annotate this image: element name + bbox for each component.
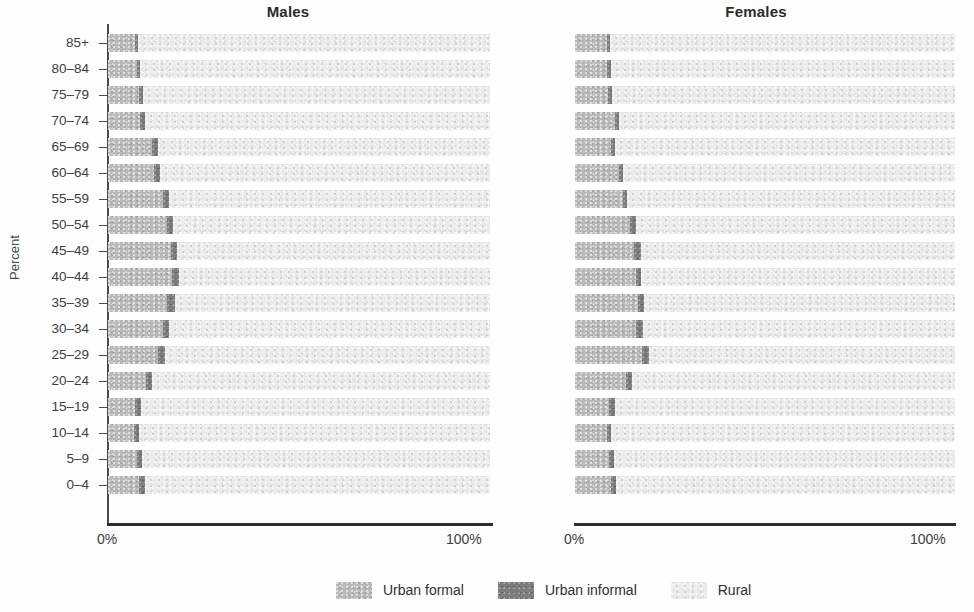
legend-label: Urban formal: [383, 582, 464, 598]
bar-segment-rural: [138, 34, 490, 52]
y-axis-tick-labels: 85+80–8475–7970–7465–6960–6455–5950–5445…: [18, 30, 92, 510]
bar-segment-urban-formal: [108, 424, 134, 442]
bar-segment-urban-formal: [108, 164, 154, 182]
bar-row: [108, 160, 490, 186]
y-tick-label: 25–29: [18, 342, 92, 368]
bar-segment-rural: [610, 34, 955, 52]
bar-segment-rural: [636, 216, 955, 234]
bar-segment-rural: [632, 372, 955, 390]
bar-segment-rural: [612, 86, 955, 104]
bar-segment-rural: [623, 164, 955, 182]
bar-segment-rural: [611, 60, 955, 78]
bar-segment-rural: [160, 164, 490, 182]
y-tick-mark: [99, 43, 108, 44]
legend-swatch-icon: [336, 582, 372, 599]
bar-row: [575, 82, 955, 108]
bar-segment-urban-formal: [575, 216, 630, 234]
bar-segment-urban-formal: [108, 372, 146, 390]
x-tick-females-right: 100%: [910, 531, 946, 547]
bar-segment-urban-formal: [575, 34, 607, 52]
y-tick-mark: [99, 225, 108, 226]
bar-segment-urban-formal: [108, 346, 158, 364]
y-tick-mark: [99, 303, 108, 304]
y-tick-label: 10–14: [18, 420, 92, 446]
y-tick-label: 65–69: [18, 134, 92, 160]
bar-row: [575, 472, 955, 498]
y-tick-label: 75–79: [18, 82, 92, 108]
y-tick-label: 15–19: [18, 394, 92, 420]
bar-segment-urban-formal: [575, 268, 636, 286]
bar-segment-urban-formal: [575, 372, 626, 390]
bar-segment-rural: [173, 216, 490, 234]
bar-row: [108, 420, 490, 446]
y-tick-label: 35–39: [18, 290, 92, 316]
y-tick-mark: [99, 95, 108, 96]
x-axis-line-males: [107, 523, 493, 526]
y-tick-mark: [99, 199, 108, 200]
bar-row: [108, 446, 490, 472]
y-tick-label: 50–54: [18, 212, 92, 238]
bar-row: [108, 368, 490, 394]
bar-segment-urban-formal: [575, 242, 634, 260]
bar-segment-urban-formal: [108, 112, 140, 130]
bar-segment-urban-formal: [575, 294, 638, 312]
plot-area-males: [108, 30, 490, 520]
bar-segment-rural: [143, 86, 490, 104]
legend-item[interactable]: Urban formal: [336, 582, 464, 599]
bar-row: [575, 394, 955, 420]
legend-item[interactable]: Urban informal: [498, 582, 637, 599]
bar-row: [108, 30, 490, 56]
bar-segment-urban-informal: [167, 294, 175, 312]
bar-segment-urban-formal: [108, 398, 135, 416]
y-tick-mark: [99, 485, 108, 486]
bar-segment-urban-formal: [575, 138, 611, 156]
plot-area-females: [575, 30, 955, 520]
panel-title-males: Males: [188, 3, 388, 20]
bar-row: [575, 30, 955, 56]
legend-item[interactable]: Rural: [671, 582, 751, 599]
y-tick-mark: [99, 69, 108, 70]
bar-row: [108, 342, 490, 368]
legend-swatch-icon: [671, 582, 707, 599]
bar-segment-rural: [152, 372, 490, 390]
bar-segment-rural: [177, 242, 490, 260]
bar-segment-rural: [614, 450, 955, 468]
bar-row: [108, 134, 490, 160]
bar-row: [575, 56, 955, 82]
bar-segment-rural: [165, 346, 490, 364]
bar-segment-urban-informal: [636, 320, 643, 338]
bar-segment-urban-formal: [575, 424, 607, 442]
x-tick-males-right: 100%: [446, 531, 482, 547]
y-tick-label: 45–49: [18, 238, 92, 264]
bar-segment-rural: [139, 424, 490, 442]
bar-segment-urban-formal: [575, 450, 609, 468]
bar-row: [108, 238, 490, 264]
bar-row: [575, 160, 955, 186]
bar-row: [108, 316, 490, 342]
bar-segment-urban-formal: [575, 476, 611, 494]
bar-segment-urban-formal: [108, 294, 167, 312]
legend-label: Rural: [718, 582, 751, 598]
bar-row: [575, 264, 955, 290]
bar-segment-rural: [643, 320, 955, 338]
bar-segment-urban-formal: [108, 60, 137, 78]
bar-segment-urban-formal: [575, 112, 615, 130]
y-tick-label: 70–74: [18, 108, 92, 134]
x-axis-line-females: [574, 523, 956, 526]
bar-segment-rural: [179, 268, 490, 286]
bar-row: [575, 342, 955, 368]
bar-row: [575, 368, 955, 394]
bar-segment-urban-informal: [158, 346, 165, 364]
bar-segment-urban-informal: [634, 242, 641, 260]
bar-segment-rural: [627, 190, 955, 208]
bar-segment-rural: [169, 190, 490, 208]
bar-segment-rural: [649, 346, 955, 364]
bar-row: [575, 134, 955, 160]
bar-row: [575, 212, 955, 238]
bar-row: [108, 264, 490, 290]
y-tick-mark: [99, 173, 108, 174]
legend-label: Urban informal: [545, 582, 637, 598]
y-tick-mark: [99, 329, 108, 330]
bar-segment-urban-formal: [108, 86, 139, 104]
y-tick-label: 55–59: [18, 186, 92, 212]
